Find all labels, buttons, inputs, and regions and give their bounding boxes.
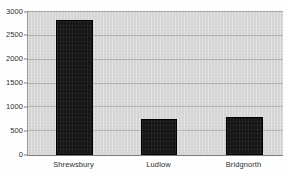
x-tick-label-ludlow: Ludlow (146, 160, 170, 169)
y-tick-label-0: 0 (19, 151, 23, 159)
plot-area (27, 11, 283, 156)
bar-chart-figure: 3000 2500 2000 1500 1000 500 0 Shrewsbur… (0, 0, 289, 175)
gridline-3000 (28, 11, 283, 12)
y-axis: 3000 2500 2000 1500 1000 500 0 (0, 0, 27, 175)
x-tick-label-shrewsbury: Shrewsbury (53, 160, 94, 169)
y-tick-mark-500 (24, 130, 27, 131)
x-axis: Shrewsbury Ludlow Bridgnorth (27, 160, 283, 175)
y-tick-mark-1500 (24, 83, 27, 84)
bar-ludlow[interactable] (141, 119, 177, 155)
x-tick-label-bridgnorth: Bridgnorth (226, 160, 262, 169)
y-tick-label-1000: 1000 (6, 103, 23, 111)
y-tick-mark-2500 (24, 35, 27, 36)
y-tick-label-3000: 3000 (6, 8, 23, 16)
y-tick-mark-3000 (24, 11, 27, 12)
y-tick-mark-1000 (24, 106, 27, 107)
y-tick-label-2000: 2000 (6, 55, 23, 63)
bar-bridgnorth[interactable] (226, 117, 263, 156)
bar-shrewsbury[interactable] (56, 20, 93, 155)
y-tick-mark-2000 (24, 59, 27, 60)
y-tick-label-1500: 1500 (6, 79, 23, 87)
y-tick-mark-0 (24, 154, 27, 155)
y-tick-label-2500: 2500 (6, 31, 23, 39)
y-tick-label-500: 500 (10, 127, 23, 135)
